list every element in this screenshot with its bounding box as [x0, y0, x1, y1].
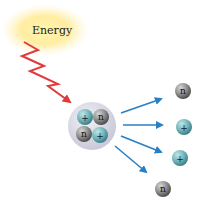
svg-text:+: +: [176, 154, 184, 164]
emitted-neutron-1: n: [175, 83, 191, 99]
arrow-to-neutron-2: [115, 146, 146, 172]
arrow-to-proton-2: [121, 136, 161, 152]
emitted-neutron-2: n: [155, 181, 171, 197]
svg-text:n: n: [160, 184, 166, 194]
svg-text:+: +: [180, 123, 188, 133]
emitted-proton-1: +: [176, 119, 192, 135]
nucleus-neutron-1: n: [93, 109, 109, 125]
svg-text:n: n: [81, 129, 87, 139]
nucleus-proton-2: +: [92, 127, 108, 143]
arrow-to-neutron-1: [121, 99, 161, 113]
photodisintegration-diagram: Energy + n n + n: [0, 0, 204, 207]
nucleus-proton-1: +: [77, 109, 93, 125]
nucleus-neutron-2: n: [76, 126, 92, 142]
energy-label: Energy: [32, 24, 73, 37]
svg-text:+: +: [81, 113, 89, 123]
nucleus: + n n +: [68, 102, 116, 150]
svg-text:+: +: [96, 131, 104, 141]
emitted-proton-2: +: [172, 150, 188, 166]
svg-text:n: n: [180, 86, 186, 96]
emission-arrows: [115, 99, 162, 172]
svg-text:n: n: [98, 112, 104, 122]
